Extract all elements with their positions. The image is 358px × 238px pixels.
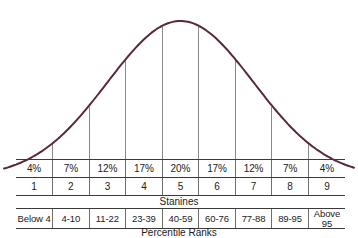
stanine-cell: 7 [235, 178, 272, 196]
normal-curve-path [4, 21, 354, 169]
percent-cell: 17% [126, 160, 163, 178]
stanine-table: 4% 7% 12% 17% 20% 17% 12% 7% 4% 1 2 3 4 … [16, 160, 345, 196]
percentile-ranks-axis-label: Percentile Ranks [0, 228, 358, 238]
percent-cell: 17% [199, 160, 236, 178]
percent-cell: 7% [53, 160, 90, 178]
stanine-cell: 9 [308, 178, 345, 196]
percentile-cell: 77-88 [235, 209, 272, 229]
percentile-cell: 89-95 [272, 209, 309, 229]
percent-cell: 20% [162, 160, 199, 178]
stanines-axis-label: Stanines [0, 197, 358, 207]
percent-of-cases-row: 4% 7% 12% 17% 20% 17% 12% 7% 4% [16, 160, 345, 178]
stanine-distribution-figure: 4% 7% 12% 17% 20% 17% 12% 7% 4% 1 2 3 4 … [0, 0, 358, 238]
stanine-number-row: 1 2 3 4 5 6 7 8 9 [16, 178, 345, 196]
percentile-cell: 60-76 [199, 209, 236, 229]
percentile-cell: 40-59 [162, 209, 199, 229]
stanine-cell: 3 [89, 178, 126, 196]
percent-cell: 4% [308, 160, 345, 178]
percentile-cell: 23-39 [126, 209, 163, 229]
stanine-cell: 2 [53, 178, 90, 196]
percent-cell: 12% [235, 160, 272, 178]
stanine-cell: 4 [126, 178, 163, 196]
percent-cell: 12% [89, 160, 126, 178]
stanine-cell: 1 [16, 178, 53, 196]
percentile-cell: 11-22 [89, 209, 126, 229]
stanine-cell: 5 [162, 178, 199, 196]
stanine-cell: 6 [199, 178, 236, 196]
percent-cell: 4% [16, 160, 53, 178]
percentile-cell: Below 4 [16, 209, 53, 229]
percentile-cell: 4-10 [53, 209, 90, 229]
percentile-ranks-table: Below 4 4-10 11-22 23-39 40-59 60-76 77-… [16, 208, 345, 229]
percent-cell: 7% [272, 160, 309, 178]
percentile-rank-row: Below 4 4-10 11-22 23-39 40-59 60-76 77-… [16, 209, 345, 229]
percentile-cell: Above 95 [308, 209, 345, 229]
stanine-cell: 8 [272, 178, 309, 196]
